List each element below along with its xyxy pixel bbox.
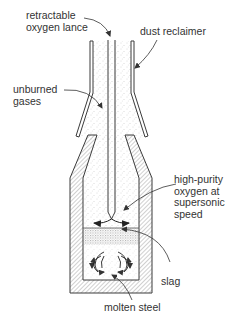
furnace-diagram: retractable oxygen lance dust reclaimer … — [0, 0, 240, 331]
molten-steel — [84, 245, 139, 280]
label-molten-steel: molten steel — [104, 302, 161, 314]
furnace-illustration — [0, 0, 240, 331]
label-unburned-gases: unburned gases — [13, 84, 57, 107]
label-dust-reclaimer: dust reclaimer — [140, 26, 206, 38]
label-oxygen-lance: retractable oxygen lance — [26, 10, 88, 33]
label-high-purity-oxygen: high-purity oxygen at supersonic speed — [174, 174, 225, 220]
label-slag: slag — [161, 276, 180, 288]
slag-layer — [83, 228, 139, 245]
leader-dust — [135, 40, 157, 68]
